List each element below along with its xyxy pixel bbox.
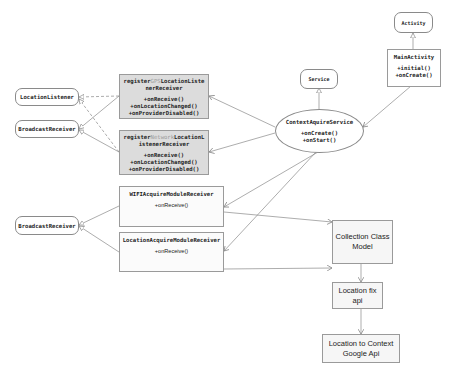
edge-contextservice-to-network (209, 133, 275, 152)
main-activity-class[interactable]: MainActivity +initial() +onCreate() (387, 49, 441, 87)
service-node[interactable]: Service (300, 69, 338, 89)
location-to-context-node[interactable]: Location to Context Google Api (322, 334, 400, 363)
edge-wifi-to-broadcastreceiver (79, 206, 119, 225)
location-fix-line1: Location fix (339, 286, 377, 296)
wifi-receiver-class[interactable]: WIFIAcquireModuleReceiver +onReceive() (119, 186, 224, 227)
location-fix-line2: api (352, 296, 362, 306)
edge-contextservice-to-locationacquire (224, 152, 316, 251)
network-title-faded: Network (151, 134, 175, 140)
location-listener-node[interactable]: LocationListener (15, 88, 79, 106)
broadcast-receiver-bottom-label: BroadcastReceiver (18, 223, 75, 229)
activity-node[interactable]: Activity (394, 12, 433, 33)
location-fix-api-node[interactable]: Location fix api (332, 282, 383, 309)
location-to-context-line1: Location to Context (329, 339, 394, 349)
edge-contextservice-to-wifi (224, 152, 318, 207)
network-title-line2: istenerReceiver (139, 141, 190, 147)
network-method: +onLocationChanged() (120, 159, 208, 166)
location-acquire-receiver-title: LocationAcquireModuleReceiver (120, 237, 223, 244)
wifi-method: +onReceive() (120, 202, 223, 209)
main-activity-title: MainActivity (388, 54, 440, 61)
connector-layer (0, 0, 449, 374)
network-receiver-title: registerNetworkLocationL istenerReceiver (120, 134, 208, 148)
gps-receiver-title: registerGPSLocationListe nerReceiver (120, 78, 208, 92)
gps-title-line2: nerReceiver (145, 85, 182, 91)
collection-class-model-node[interactable]: Collection Class Model (332, 220, 393, 264)
network-receiver-class[interactable]: registerNetworkLocationL istenerReceiver… (119, 130, 209, 175)
main-activity-method: +initial() (388, 65, 440, 72)
gps-method: +onProviderDisabled() (120, 110, 208, 117)
location-to-context-line2: Google Api (343, 349, 380, 359)
edge-locationacquire-to-broadcastreceiver (79, 226, 119, 252)
location-acquire-receiver-class[interactable]: LocationAcquireModuleReceiver +onReceive… (119, 232, 224, 272)
gps-title-prefix: register (124, 78, 151, 84)
edge-locationacquire-to-collection (224, 268, 332, 269)
edge-gps-to-locationlistener (79, 96, 119, 97)
location-listener-label: LocationListener (20, 94, 74, 100)
edge-network-to-broadcastreceiver (79, 130, 119, 152)
broadcast-receiver-top-label: BroadcastReceiver (18, 126, 75, 132)
gps-method: +onLocationChanged() (120, 103, 208, 110)
service-label: Service (308, 76, 329, 82)
context-aquire-service-title: ContextAquireService (286, 119, 353, 126)
collection-line2: Model (352, 242, 372, 252)
gps-receiver-class[interactable]: registerGPSLocationListe nerReceiver +on… (119, 74, 209, 119)
edge-wifi-to-collection (224, 212, 332, 222)
edge-contextservice-to-gps (209, 96, 275, 127)
edge-gps-to-broadcastreceiver (79, 96, 119, 129)
gps-title-faded: GPS (151, 78, 161, 84)
gps-title-suffix: LocationListe (161, 78, 205, 84)
main-activity-method: +onCreate() (388, 72, 440, 79)
activity-label: Activity (401, 20, 425, 26)
collection-line1: Collection Class (336, 232, 390, 242)
network-method: +onProviderDisabled() (120, 166, 208, 173)
context-aquire-service-node[interactable]: ContextAquireService +onCreate() +onStar… (275, 109, 364, 153)
wifi-receiver-title: WIFIAcquireModuleReceiver (120, 191, 223, 198)
broadcast-receiver-top-node[interactable]: BroadcastReceiver (15, 120, 79, 138)
location-acquire-method: +onReceive() (120, 248, 223, 255)
network-method: +onReceive() (120, 152, 208, 159)
context-service-method: +onStart() (303, 137, 337, 144)
context-service-method: +onCreate() (301, 130, 338, 137)
edge-network-to-locationlistener (79, 99, 119, 152)
broadcast-receiver-bottom-node[interactable]: BroadcastReceiver (15, 216, 79, 235)
network-title-suffix: LocationL (174, 134, 204, 140)
gps-method: +onReceive() (120, 96, 208, 103)
network-title-prefix: register (124, 134, 151, 140)
edge-mainactivity-to-contextservice (363, 86, 411, 127)
